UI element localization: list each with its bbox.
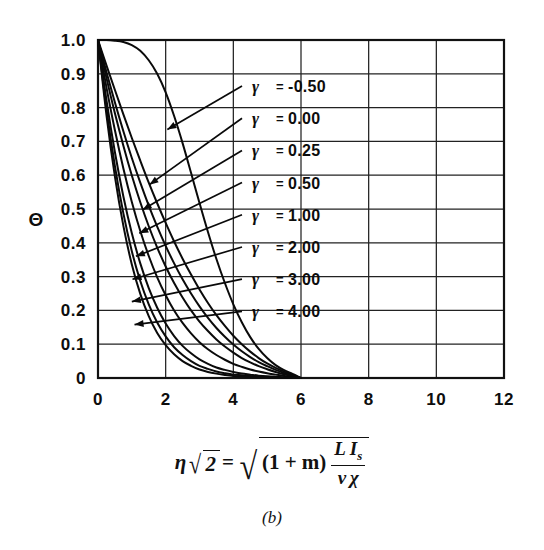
formula-equals: = xyxy=(220,450,236,474)
y-tick-label-8: 0.8 xyxy=(61,99,86,118)
x-tick-label-5: 10 xyxy=(426,390,446,409)
legend-equals-1: = xyxy=(276,111,284,126)
legend-gamma-symbol-7: γ xyxy=(252,302,260,321)
y-tick-label-1: 0.1 xyxy=(61,335,86,354)
y-tick-label-5: 0.5 xyxy=(61,200,86,219)
formula-num-L: L xyxy=(334,438,346,459)
y-tick-label-3: 0.3 xyxy=(61,268,86,287)
figure-root: γ=-0.50γ=0.00γ=0.25γ=0.50γ=1.00γ=2.00γ=3… xyxy=(0,0,544,550)
formula-one-plus-m: (1 + m) xyxy=(262,450,326,474)
legend-equals-4: = xyxy=(276,208,284,223)
legend-value-3: 0.50 xyxy=(288,175,320,192)
legend-value-5: 2.00 xyxy=(288,239,320,256)
legend-value-4: 1.00 xyxy=(288,207,320,224)
leader-line-7 xyxy=(135,311,242,324)
x-tick-label-2: 4 xyxy=(228,390,238,409)
panel-caption: (b) xyxy=(0,508,544,528)
x-tick-label-1: 2 xyxy=(161,390,171,409)
x-tick-label-4: 8 xyxy=(364,390,374,409)
leader-arrowhead-0 xyxy=(167,122,176,130)
x-axis-tick-labels: 024681012 xyxy=(93,390,514,409)
x-tick-label-0: 0 xyxy=(93,390,103,409)
legend-gamma-symbol-4: γ xyxy=(252,206,260,225)
leader-line-2 xyxy=(143,150,242,209)
legend-gamma-symbol-5: γ xyxy=(252,238,260,257)
legend-equals-5: = xyxy=(276,240,284,255)
leader-arrowhead-7 xyxy=(135,320,144,327)
legend-gamma-symbol-6: γ xyxy=(252,270,260,289)
leader-arrowhead-1 xyxy=(149,177,158,185)
x-axis-formula-caption: η√2=√(1 + m)L Isν χ xyxy=(0,438,544,491)
legend-equals-6: = xyxy=(276,272,284,287)
leader-line-6 xyxy=(132,279,242,301)
y-axis-title: Θ xyxy=(29,209,44,230)
legend-value-7: 4.00 xyxy=(288,303,320,320)
legend-gamma-symbol-2: γ xyxy=(252,141,260,160)
radical-icon: √ xyxy=(189,452,201,478)
x-tick-label-6: 12 xyxy=(494,390,514,409)
legend-equals-2: = xyxy=(276,143,284,158)
formula-eta: η xyxy=(175,450,187,474)
y-tick-label-7: 0.7 xyxy=(61,132,86,151)
radical-icon: √ xyxy=(240,447,258,485)
y-tick-label-4: 0.4 xyxy=(61,234,86,253)
legend-equals-0: = xyxy=(276,79,284,94)
formula-fraction: L Isν χ xyxy=(331,438,365,489)
formula-sqrt-two: √2 xyxy=(186,451,220,479)
y-tick-label-10: 1.0 xyxy=(61,31,86,50)
x-tick-label-3: 6 xyxy=(296,390,306,409)
y-axis-label: Θ xyxy=(29,209,44,230)
y-tick-label-2: 0.2 xyxy=(61,301,86,320)
formula-two: 2 xyxy=(206,452,217,476)
formula-den-chi: χ xyxy=(350,467,359,488)
y-tick-label-0: 0 xyxy=(76,369,86,388)
legend-value-1: 0.00 xyxy=(288,110,320,127)
legend-value-6: 3.00 xyxy=(288,271,320,288)
y-tick-label-6: 0.6 xyxy=(61,166,86,185)
formula-den-nu: ν xyxy=(338,467,346,488)
formula-num-I-sub: s xyxy=(357,448,362,463)
legend-value-0: -0.50 xyxy=(288,78,326,95)
legend-layer: γ=-0.50γ=0.00γ=0.25γ=0.50γ=1.00γ=2.00γ=3… xyxy=(252,77,326,321)
legend-gamma-symbol-3: γ xyxy=(252,174,260,193)
legend-gamma-symbol-0: γ xyxy=(252,77,260,96)
y-tick-label-9: 0.9 xyxy=(61,65,86,84)
legend-gamma-symbol-1: γ xyxy=(252,109,260,128)
annotation-leader-layer xyxy=(132,86,242,327)
legend-equals-3: = xyxy=(276,176,284,191)
leader-line-3 xyxy=(139,183,242,234)
formula-big-sqrt: √(1 + m)L Isν χ xyxy=(236,438,369,491)
legend-equals-7: = xyxy=(276,304,284,319)
y-axis-tick-labels: 00.10.20.30.40.50.60.70.80.91.0 xyxy=(61,31,86,388)
legend-value-2: 0.25 xyxy=(288,142,320,159)
